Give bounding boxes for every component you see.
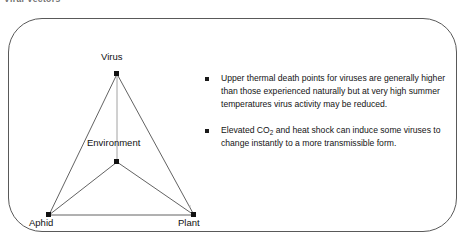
bullet-text: Elevated CO2 and heat shock can induce s… — [221, 124, 453, 150]
edge-environment-plant — [117, 162, 194, 215]
list-item: Upper thermal death points for viruses a… — [205, 72, 453, 112]
node-label-environment: Environment — [87, 137, 140, 148]
bullet-text: Upper thermal death points for viruses a… — [221, 72, 453, 112]
bullet-text-pre: Upper thermal death points for viruses a… — [221, 73, 445, 109]
bullet-text-sub: 2 — [270, 129, 274, 136]
node-environment[interactable] — [114, 159, 119, 164]
bullet-list: Upper thermal death points for viruses a… — [205, 72, 453, 162]
diagram-container: Virus Environment Aphid Plant — [23, 45, 233, 244]
bullet-text-pre: Elevated CO — [221, 125, 270, 135]
content-frame: Virus Environment Aphid Plant Upper ther… — [8, 18, 457, 232]
node-virus[interactable] — [114, 71, 119, 76]
node-label-virus: Virus — [101, 51, 122, 62]
bullet-square-icon — [205, 77, 209, 81]
header-strip: Viral Vectors — [0, 0, 467, 7]
bullet-square-icon — [205, 129, 209, 133]
page-title: Viral Vectors — [0, 0, 467, 7]
edge-environment-aphid — [49, 162, 117, 215]
node-label-aphid: Aphid — [29, 217, 53, 228]
list-item: Elevated CO2 and heat shock can induce s… — [205, 124, 453, 150]
node-label-plant: Plant — [178, 217, 200, 228]
